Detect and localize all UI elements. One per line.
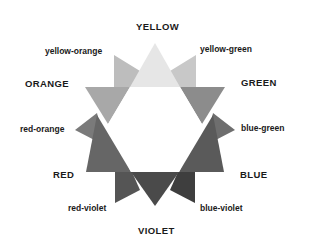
label-violet: VIOLET bbox=[138, 226, 175, 236]
label-red-violet: red-violet bbox=[68, 204, 106, 213]
label-green: GREEN bbox=[241, 78, 277, 88]
segment-yellow bbox=[130, 43, 180, 87]
label-blue: BLUE bbox=[240, 170, 267, 180]
label-red: RED bbox=[53, 170, 74, 180]
label-orange: ORANGE bbox=[25, 79, 69, 89]
label-blue-violet: blue-violet bbox=[200, 204, 243, 213]
label-red-orange: red-orange bbox=[20, 125, 64, 134]
label-yellow-orange: yellow-orange bbox=[45, 47, 102, 56]
label-yellow: YELLOW bbox=[136, 22, 179, 32]
label-yellow-green: yellow-green bbox=[200, 45, 252, 54]
label-blue-green: blue-green bbox=[241, 124, 284, 133]
